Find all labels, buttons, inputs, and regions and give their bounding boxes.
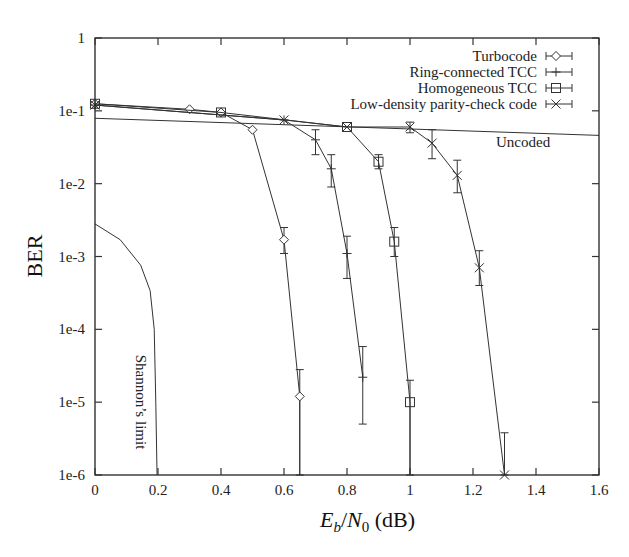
x-tick-label: 1.2 <box>464 482 483 498</box>
y-tick-label: 1e-2 <box>58 176 85 192</box>
x-tick-label: 0.6 <box>275 482 294 498</box>
x-tick-label: 0.4 <box>212 482 231 498</box>
legend-item-label: Turbocode <box>473 48 538 64</box>
legend-item-label: Low-density parity-check code <box>350 96 537 112</box>
ber-chart: 00.20.40.60.811.21.41.6 11e-11e-21e-31e-… <box>0 0 629 557</box>
y-tick-label: 1e-3 <box>58 249 85 265</box>
x-tick-label: 1.4 <box>527 482 546 498</box>
x-tick-label: 0.2 <box>149 482 168 498</box>
series-diamond <box>91 99 305 475</box>
y-tick-label: 1e-6 <box>58 467 85 483</box>
x-tick-label: 1 <box>406 482 414 498</box>
diamond-marker <box>280 235 289 244</box>
y-axis-title: BER <box>22 234 47 277</box>
plot-area <box>91 99 600 479</box>
legend-item-label: Homogeneous TCC <box>418 80 537 96</box>
series-line <box>95 105 363 377</box>
legend: TurbocodeRing-connected TCCHomogeneous T… <box>350 48 572 112</box>
x-tick-label: 1.6 <box>590 482 609 498</box>
x-tick-label: 0.8 <box>338 482 357 498</box>
shannon-limit-label: Shannon’s limit <box>133 355 149 450</box>
diamond-marker <box>552 52 561 61</box>
legend-item-label: Ring-connected TCC <box>409 64 537 80</box>
y-tick-label: 1e-5 <box>58 394 85 410</box>
x-axis-title: Eb/N0 (dB) <box>319 507 415 535</box>
diamond-marker <box>248 125 257 134</box>
diamond-marker <box>295 392 304 401</box>
uncoded-label: Uncoded <box>496 134 551 150</box>
x-tick-label: 0 <box>91 482 99 498</box>
y-tick-label: 1e-1 <box>58 103 85 119</box>
y-tick-label: 1e-4 <box>58 321 85 337</box>
y-tick-label: 1 <box>78 30 86 46</box>
series-line <box>95 104 300 475</box>
series-plus <box>91 101 368 425</box>
